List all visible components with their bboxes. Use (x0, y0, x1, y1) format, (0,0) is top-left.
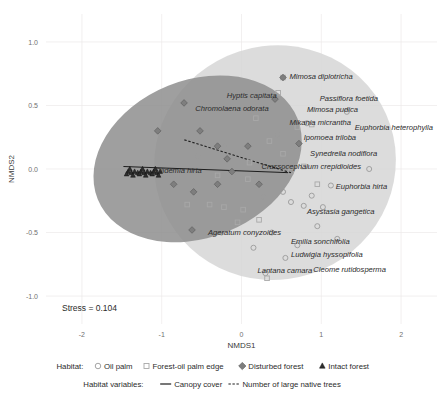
nmds-ordination-figure: Mimosa diplotrichaHyptis capitataPassifl… (0, 0, 443, 401)
legend-item-label: Forest-oil palm edge (153, 362, 224, 371)
legend-item-intact-forest[interactable]: Intact forest (320, 362, 370, 371)
species-label: Emilia sonchifolia (291, 237, 350, 246)
species-label: Asystasia gangetica (306, 207, 375, 216)
legend-item-label: Intact forest (328, 362, 370, 371)
species-label: Hyptis capitata (227, 91, 277, 100)
legend-item-oil-palm[interactable]: Oil palm (95, 362, 132, 371)
species-label: Euphorbia hirta (336, 182, 388, 191)
species-label: Mikania micrantha (289, 118, 351, 127)
marker-intact-forest (320, 363, 326, 368)
x-tick-label: -1 (159, 331, 165, 338)
legend-item-label: Oil palm (104, 362, 133, 371)
legend-variables-label: Habitat variables: (83, 380, 143, 389)
x-tick-label: 0 (240, 331, 244, 338)
x-axis-title: NMDS1 (227, 341, 256, 350)
legend-item-label: Disturbed forest (248, 362, 304, 371)
legend-variable-number-of-large-native-trees[interactable]: Number of large native trees (228, 380, 340, 389)
species-label: Synedrella nodiflora (310, 149, 377, 158)
species-label: Passiflora foetida (320, 94, 378, 103)
y-tick-label: 0.0 (28, 166, 38, 173)
legend: Habitat:Oil palmForest-oil palm edgeDist… (56, 362, 369, 389)
y-tick-label: 1.0 (28, 39, 38, 46)
species-label: Ipomoea triloba (304, 133, 356, 142)
species-label: Euphorbia heterophylla (355, 123, 433, 132)
species-label: Cleome rutidosperma (313, 265, 386, 274)
x-tick-label: 1 (319, 331, 323, 338)
legend-variable-label: Number of large native trees (242, 380, 340, 389)
species-label: Lantana camara (257, 266, 312, 275)
species-label: Mimosa diplotricha (289, 72, 352, 81)
marker-oil-palm (95, 363, 101, 369)
species-label: Ageratum conyzoides (207, 228, 281, 237)
y-tick-label: 0.5 (28, 102, 38, 109)
legend-variable-label: Canopy cover (174, 380, 223, 389)
marker-forest-oil-palm-edge (144, 364, 149, 369)
species-label: Ludwigia hyssopifolia (291, 250, 363, 259)
legend-variable-canopy-cover[interactable]: Canopy cover (160, 380, 223, 389)
species-label: Crassocephalum crepidioides (261, 162, 361, 171)
species-label: Chromolaena odorata (195, 104, 268, 113)
y-tick-label: -0.5 (26, 229, 38, 236)
stress-value: Stress = 0.104 (62, 303, 117, 313)
y-axis-title: NMDS2 (7, 154, 16, 183)
x-tick-label: 2 (399, 331, 403, 338)
nmds-plot-svg: Mimosa diplotrichaHyptis capitataPassifl… (0, 0, 443, 401)
legend-habitat-label: Habitat: (56, 362, 83, 371)
legend-item-disturbed-forest[interactable]: Disturbed forest (239, 362, 304, 371)
legend-item-forest-oil-palm-edge[interactable]: Forest-oil palm edge (144, 362, 224, 371)
species-label: Mimosa pudica (307, 105, 358, 114)
y-tick-label: -1.0 (26, 293, 38, 300)
species-label: Clidemia hirta (155, 166, 201, 175)
x-tick-label: -2 (79, 331, 85, 338)
marker-disturbed-forest (239, 362, 246, 369)
